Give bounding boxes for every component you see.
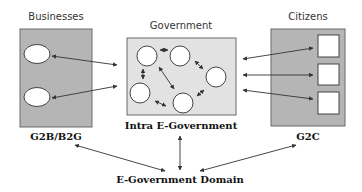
e-government-diagram: Businesses Government Citizens — [0, 0, 362, 192]
citizen-entity — [318, 92, 339, 114]
businesses-title: Businesses — [28, 11, 83, 22]
government-entity — [173, 93, 193, 113]
g2b-caption: G2B/B2G — [30, 131, 82, 142]
citizen-entity — [318, 35, 339, 57]
citizens-box — [271, 29, 345, 126]
intra-caption: Intra E-Government — [125, 120, 238, 131]
g2c-caption: G2C — [296, 131, 319, 142]
business-entity — [24, 88, 50, 107]
government-entity — [170, 46, 190, 66]
business-entity — [24, 45, 50, 64]
businesses-box — [20, 29, 92, 127]
government-box — [127, 38, 236, 115]
citizen-entity — [318, 64, 339, 85]
domain-arrows — [75, 136, 296, 171]
citizens-title: Citizens — [288, 11, 327, 22]
government-title: Government — [150, 20, 212, 31]
government-entity — [137, 46, 157, 66]
domain-label: E-Government Domain — [116, 174, 244, 185]
government-entity — [130, 83, 150, 103]
government-entity — [206, 67, 226, 87]
